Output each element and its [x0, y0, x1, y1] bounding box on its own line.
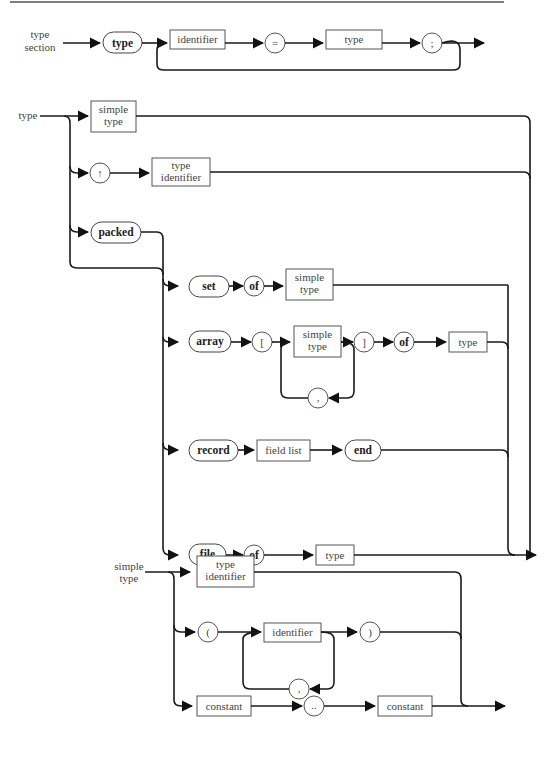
simple-type-label-2: type — [120, 572, 139, 584]
array-keyword: array — [196, 335, 224, 348]
lbracket-symbol: [ — [260, 336, 264, 348]
range-symbol: .. — [311, 699, 317, 711]
simple-type-text-2: type — [104, 115, 123, 127]
identifier-text: identifier — [177, 33, 218, 45]
array-of-keyword: of — [399, 336, 409, 348]
constant-text-2: constant — [387, 700, 424, 712]
set-of-keyword: of — [249, 280, 259, 292]
type-section-diagram: type section type identifier = type ; — [24, 28, 484, 70]
end-keyword: end — [354, 444, 373, 456]
rbracket-symbol: ] — [362, 336, 366, 348]
array-comma-symbol: , — [317, 391, 320, 403]
st-identifier-text: identifier — [272, 626, 313, 638]
syntax-diagrams: type section type identifier = type ; ty… — [0, 0, 549, 758]
set-simple-text-1: simple — [295, 271, 324, 283]
constant-text-1: constant — [206, 700, 243, 712]
semicolon-symbol: ; — [430, 37, 433, 49]
field-list-text: field list — [265, 444, 301, 456]
type-identifier-text-1: type — [172, 159, 191, 171]
record-keyword: record — [197, 444, 230, 456]
simple-type-diagram: simple type type identifier ( identifier… — [114, 556, 505, 716]
type-text: type — [345, 33, 364, 45]
array-type-text: type — [459, 336, 478, 348]
st-type-identifier-text-1: type — [216, 558, 235, 570]
type-label: type — [19, 109, 38, 121]
set-keyword: set — [202, 280, 216, 292]
simple-type-label-1: simple — [114, 560, 143, 572]
file-type-text: type — [326, 549, 345, 561]
type-section-label-2: section — [24, 41, 56, 53]
equals-symbol: = — [272, 37, 278, 49]
set-simple-text-2: type — [300, 283, 319, 295]
lparen-symbol: ( — [206, 626, 210, 639]
type-identifier-text-2: identifier — [161, 171, 202, 183]
st-type-identifier-text-2: identifier — [205, 570, 246, 582]
array-simple-text-1: simple — [303, 328, 332, 340]
packed-keyword: packed — [98, 226, 134, 239]
rparen-symbol: ) — [368, 626, 372, 639]
array-simple-text-2: type — [308, 340, 327, 352]
type-keyword: type — [112, 37, 133, 50]
st-comma-symbol: , — [298, 682, 301, 694]
type-section-label-1: type — [31, 28, 50, 40]
type-diagram: type simple type ↑ type identifier packe… — [19, 101, 536, 565]
simple-type-text-1: simple — [99, 103, 128, 115]
pointer-symbol: ↑ — [97, 167, 103, 179]
